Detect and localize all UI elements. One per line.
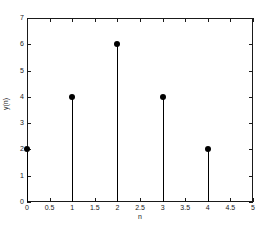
y-tick-label: 4 bbox=[13, 93, 24, 101]
y-axis-tick bbox=[249, 202, 253, 203]
x-axis-tick bbox=[117, 18, 118, 22]
x-tick-label: 4 bbox=[206, 204, 210, 212]
y-axis-tick bbox=[27, 202, 31, 203]
x-tick-label: 4.5 bbox=[226, 204, 236, 212]
x-tick-label: 1 bbox=[70, 204, 74, 212]
y-axis-tick bbox=[27, 71, 31, 72]
y-axis-label: y(n) bbox=[2, 98, 9, 110]
stem-line bbox=[27, 149, 28, 202]
y-axis-tick bbox=[249, 18, 253, 19]
y-axis-tick bbox=[249, 123, 253, 124]
x-axis-tick bbox=[163, 18, 164, 22]
y-tick-label: 7 bbox=[13, 14, 24, 22]
x-tick-label: 5 bbox=[251, 204, 255, 212]
y-axis-tick bbox=[27, 18, 31, 19]
x-tick-label: 1.5 bbox=[90, 204, 100, 212]
plot-axes-box bbox=[27, 18, 253, 202]
y-tick-label: 2 bbox=[13, 145, 24, 153]
x-axis-tick bbox=[140, 198, 141, 202]
y-axis-tick bbox=[27, 44, 31, 45]
stem-marker bbox=[205, 146, 211, 152]
y-axis-tick bbox=[249, 149, 253, 150]
y-axis-tick bbox=[249, 97, 253, 98]
x-axis-tick bbox=[95, 18, 96, 22]
y-axis-tick bbox=[249, 71, 253, 72]
y-axis-tick bbox=[249, 176, 253, 177]
stem-marker bbox=[160, 94, 166, 100]
stem-plot-figure: n y(n) 00.511.522.533.544.5501234567 bbox=[0, 0, 268, 230]
x-axis-tick bbox=[230, 18, 231, 22]
x-tick-label: 0.5 bbox=[45, 204, 55, 212]
x-axis-tick bbox=[230, 198, 231, 202]
stem-line bbox=[72, 97, 73, 202]
stem-marker bbox=[24, 146, 30, 152]
x-axis-tick bbox=[140, 18, 141, 22]
x-axis-tick bbox=[253, 198, 254, 202]
y-tick-label: 6 bbox=[13, 40, 24, 48]
x-tick-label: 3.5 bbox=[180, 204, 190, 212]
x-axis-label: n bbox=[138, 213, 142, 220]
stem-line bbox=[163, 97, 164, 202]
x-axis-tick bbox=[72, 18, 73, 22]
stem-marker bbox=[114, 41, 120, 47]
x-axis-tick bbox=[95, 198, 96, 202]
x-axis-tick bbox=[50, 18, 51, 22]
y-tick-label: 1 bbox=[13, 172, 24, 180]
y-axis-tick bbox=[27, 97, 31, 98]
x-axis-tick bbox=[50, 198, 51, 202]
x-axis-tick bbox=[208, 18, 209, 22]
y-axis-tick bbox=[249, 44, 253, 45]
x-axis-tick bbox=[185, 18, 186, 22]
x-tick-label: 0 bbox=[25, 204, 29, 212]
stem-marker bbox=[69, 94, 75, 100]
x-tick-label: 2.5 bbox=[135, 204, 145, 212]
x-axis-tick bbox=[253, 18, 254, 22]
x-axis-tick bbox=[185, 198, 186, 202]
y-axis-tick bbox=[27, 123, 31, 124]
y-tick-label: 0 bbox=[13, 198, 24, 206]
stem-line bbox=[208, 149, 209, 202]
stem-line bbox=[117, 44, 118, 202]
y-tick-label: 3 bbox=[13, 119, 24, 127]
y-tick-label: 5 bbox=[13, 67, 24, 75]
x-tick-label: 2 bbox=[115, 204, 119, 212]
x-tick-label: 3 bbox=[161, 204, 165, 212]
